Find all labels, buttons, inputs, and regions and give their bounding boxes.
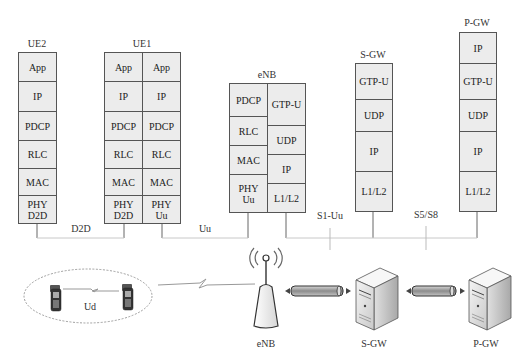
d2d-interface-label: D2D <box>71 223 90 234</box>
enb-device-label: eNB <box>257 338 275 349</box>
s5s8-interface-label: S5/S8 <box>414 209 438 220</box>
ud-wireless-link <box>63 289 119 292</box>
diagram-graphics <box>0 0 521 364</box>
phone-icon-ue1 <box>122 284 133 310</box>
pgw-device-label: P-GW <box>473 338 499 349</box>
phone-icon-ue2 <box>50 285 61 311</box>
ud-interface-label: Ud <box>84 301 96 312</box>
uu-interface-label: Uu <box>199 223 211 234</box>
s1-tunnel-link <box>285 286 351 296</box>
s1u-interface-label: S1-Uu <box>317 210 343 221</box>
sgw-device-label: S-GW <box>361 338 387 349</box>
stack-drop-lines <box>37 212 477 238</box>
sgw-server-icon <box>356 268 398 330</box>
s5s8-tunnel-link <box>406 286 465 296</box>
pgw-server-icon <box>469 268 511 330</box>
uu-wireless-link <box>158 279 255 288</box>
enb-antenna-icon <box>250 248 282 328</box>
